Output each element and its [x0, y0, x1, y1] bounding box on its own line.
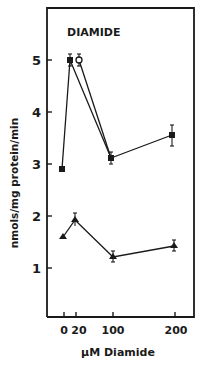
- series-open-circle: [76, 54, 82, 66]
- square-marker-200: [169, 132, 175, 138]
- series-squares: [59, 54, 175, 172]
- y-axis: 5 4 3 2 1 nmols/mg protein/min: [8, 53, 52, 276]
- y-tick-label-4: 4: [32, 105, 41, 120]
- chart-title: DIAMIDE: [67, 26, 120, 39]
- series-triangles: [59, 213, 178, 262]
- square-marker-100: [108, 155, 114, 161]
- x-axis: 0 20 100 200 μM Diamide: [60, 312, 188, 359]
- y-tick-label-1: 1: [32, 261, 41, 276]
- square-marker-20: [67, 57, 73, 63]
- triangle-marker-20: [71, 216, 79, 222]
- series-squares-line: [62, 60, 172, 169]
- open-circle-marker-20: [76, 57, 82, 63]
- y-tick-label-2: 2: [32, 209, 41, 224]
- x-axis-label: μM Diamide: [81, 346, 155, 359]
- y-axis-label: nmols/mg protein/min: [8, 118, 20, 248]
- triangle-marker-200: [170, 242, 178, 248]
- square-marker-0: [59, 166, 65, 172]
- x-tick-label-100: 100: [102, 324, 125, 337]
- y-tick-label-5: 5: [32, 53, 41, 68]
- y-tick-label-3: 3: [32, 157, 41, 172]
- x-tick-label-200: 200: [165, 324, 188, 337]
- series-open-connector: [79, 60, 111, 158]
- chart: 5 4 3 2 1 nmols/mg protein/min 0 20 100 …: [0, 0, 205, 365]
- x-tick-label-0: 0: [60, 324, 68, 337]
- series-triangles-line: [63, 220, 174, 257]
- x-tick-label-20: 20: [71, 324, 87, 337]
